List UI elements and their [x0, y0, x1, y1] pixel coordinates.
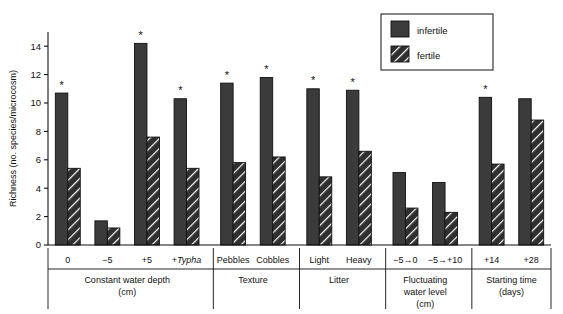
bar-infertile [174, 99, 186, 245]
significance-asterisk: * [178, 84, 183, 96]
x-axis-category-label: −5→+10 [428, 255, 463, 265]
bar-infertile [307, 89, 319, 245]
y-axis-tick-label: 2 [36, 211, 41, 222]
y-axis-title-text: Richness (no. species/microcosm) [8, 70, 18, 207]
bar-fertile [273, 157, 285, 245]
significance-asterisk: * [264, 63, 269, 75]
significance-asterisk: * [351, 76, 356, 88]
legend-label-infertile: infertile [417, 25, 448, 36]
x-axis-category-label: Light [310, 255, 330, 265]
significance-asterisk: * [59, 79, 64, 91]
x-axis-category-label: Pebbles [217, 255, 250, 265]
bar-fertile [319, 177, 331, 245]
richness-bar-chart: 02468101214 Richness (no. species/microc… [0, 0, 563, 314]
y-axis-tick-label: 0 [36, 239, 41, 250]
significance-asterisk: * [139, 29, 144, 41]
significance-asterisk: * [483, 83, 488, 95]
legend: infertilefertile [381, 14, 493, 70]
x-axis-category-label: 0 [65, 255, 70, 265]
x-axis-category-label: +14 [484, 255, 499, 265]
group-sublabel: (cm) [416, 299, 434, 309]
bar-infertile [134, 43, 146, 245]
group-label: Litter [329, 275, 349, 285]
y-axis-title: Richness (no. species/microcosm) [8, 70, 18, 207]
group-label: Fluctuating [403, 275, 447, 285]
group-sublabel: (cm) [118, 287, 136, 297]
group-sublabel: (days) [499, 287, 524, 297]
y-axis-tick-label: 14 [30, 41, 41, 52]
bar-infertile [519, 99, 531, 245]
bar-infertile [393, 173, 405, 245]
y-axis-tick-label: 6 [36, 154, 41, 165]
bar-infertile [433, 183, 445, 245]
significance-asterisk: * [225, 69, 230, 81]
group-label: Starting time [486, 275, 537, 285]
y-axis-tick-label: 8 [36, 126, 41, 137]
group-sublabel: water level [403, 287, 447, 297]
bar-fertile [445, 212, 457, 245]
x-axis-category-label: +5 [142, 255, 152, 265]
bar-infertile [479, 97, 491, 245]
bar-fertile [187, 168, 199, 245]
legend-swatch-fertile [391, 46, 409, 62]
bar-infertile [260, 77, 272, 245]
bar-infertile [221, 83, 233, 245]
y-axis-tick-label: 4 [36, 183, 41, 194]
bar-fertile [147, 137, 159, 245]
bar-fertile [492, 164, 504, 245]
bar-fertile [531, 120, 543, 245]
x-axis-category-label: Cobbles [256, 255, 290, 265]
y-axis-tick-label: 10 [30, 97, 41, 108]
x-axis-category-label: +Typha [172, 255, 202, 265]
bar-fertile [233, 163, 245, 245]
bar-fertile [107, 228, 119, 245]
legend-label-fertile: fertile [417, 50, 440, 61]
bar-infertile [346, 90, 358, 245]
x-axis-category-label: −5 [102, 255, 112, 265]
x-axis-category-label: +28 [524, 255, 539, 265]
significance-asterisk: * [311, 74, 316, 86]
x-axis-category-label: Heavy [346, 255, 372, 265]
group-label: Constant water depth [84, 275, 170, 285]
x-axis-category-label: −5→0 [393, 255, 417, 265]
chart-figure: 02468101214 Richness (no. species/microc… [0, 0, 563, 314]
group-label: Texture [238, 275, 268, 285]
bar-fertile [68, 168, 80, 245]
bar-fertile [359, 151, 371, 245]
y-axis-tick-label: 12 [30, 69, 41, 80]
legend-swatch-infertile [391, 21, 409, 37]
bar-infertile [55, 93, 67, 245]
bar-infertile [95, 221, 107, 245]
bar-fertile [405, 208, 417, 245]
